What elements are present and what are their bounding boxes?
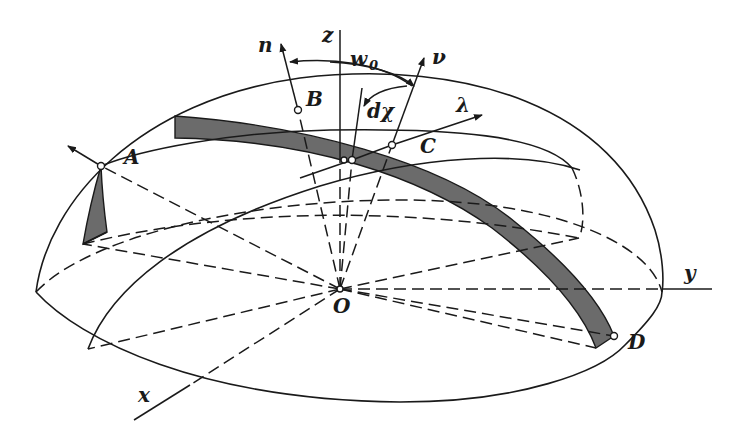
label-n: n [258,33,273,57]
nu-vector [392,58,424,145]
x-axis-dashed [190,289,340,385]
label-dchi: dχ [367,99,396,123]
label-nu: ν [432,45,446,69]
point-mid [349,157,356,164]
point-b [295,107,302,114]
label-b: B [305,87,323,111]
point-d [611,333,618,340]
label-x: x [137,383,151,407]
label-a: A [122,145,140,169]
label-lambda: λ [455,93,470,117]
point-a [98,163,105,170]
label-w0: w [350,47,368,71]
label-w0-sub: 0 [369,58,378,73]
point-o [337,286,343,292]
label-d: D [627,330,646,354]
n-vector [281,44,298,110]
label-z: z [321,23,334,47]
point-c [389,142,396,149]
label-y: y [683,261,697,285]
hemisphere-diagram: z n w 0 ν λ dχ A B C D O x y [0,0,750,438]
latitude-circle-dashed [572,168,583,238]
point-mid2 [341,157,347,163]
a-vector [68,146,101,166]
hemisphere-outline [36,74,663,292]
label-c: C [420,134,436,158]
shaded-wedge-a [83,166,107,244]
label-o: O [333,294,351,318]
